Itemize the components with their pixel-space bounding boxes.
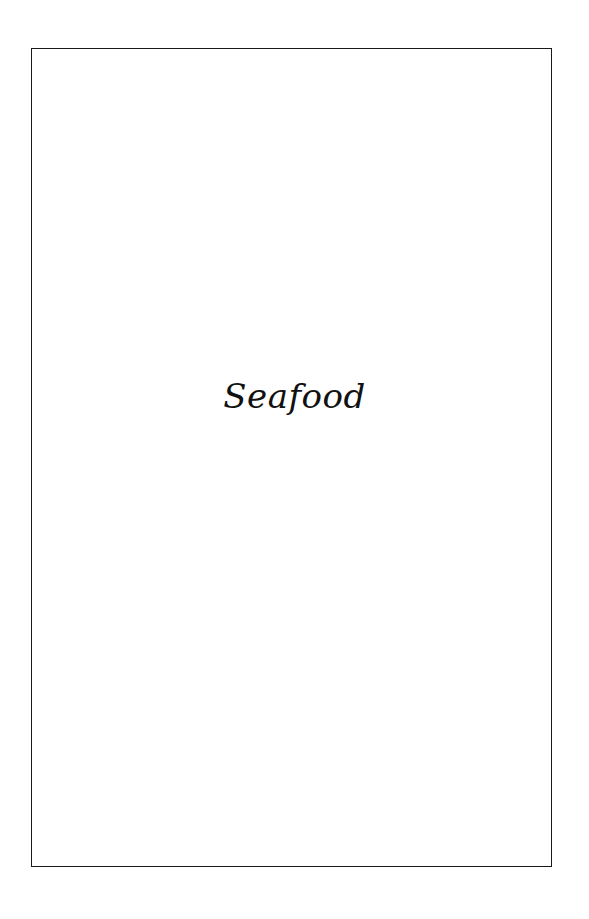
page-border-frame [31, 48, 552, 867]
section-title: Seafood [0, 376, 589, 416]
